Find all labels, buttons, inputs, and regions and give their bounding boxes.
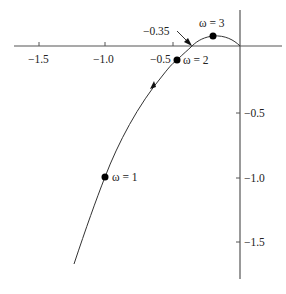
label-w2: ω = 2 [183, 54, 209, 66]
x-tick-label: −0.5 [150, 53, 171, 65]
label-w1: ω = 1 [112, 171, 138, 183]
point-w3 [210, 33, 217, 40]
nyquist-plot: −1.5 −1.0 −0.5 −0.5 −1.0 −1.5 ω = 1 ω = … [0, 0, 286, 294]
label-w3: ω = 3 [199, 17, 225, 29]
direction-arrow-icon [150, 81, 156, 89]
y-tick-label: −1.5 [244, 236, 265, 248]
point-w2 [174, 57, 181, 64]
crossing-label: −0.35 [143, 25, 170, 37]
y-tick-label: −1.0 [244, 172, 265, 184]
point-w1 [102, 174, 109, 181]
y-tick-label: −0.5 [244, 107, 265, 119]
x-tick-label: −1.5 [28, 53, 49, 65]
x-tick-label: −1.0 [93, 53, 114, 65]
nyquist-curve [74, 36, 240, 264]
